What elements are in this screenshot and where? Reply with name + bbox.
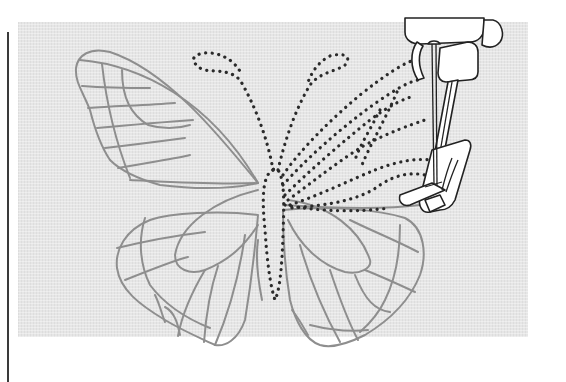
dotted-stitch-lines bbox=[193, 53, 430, 300]
right-lower-wing bbox=[283, 200, 424, 346]
butterfly-illustration bbox=[0, 0, 566, 382]
sewing-machine-presser-foot bbox=[400, 18, 503, 212]
left-upper-wing bbox=[76, 50, 258, 187]
left-lower-wing bbox=[117, 190, 262, 345]
